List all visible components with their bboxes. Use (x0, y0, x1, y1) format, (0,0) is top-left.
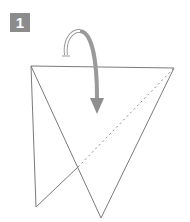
fold-arrow-icon (62, 31, 104, 114)
paper-bottom-left-edge (36, 167, 78, 207)
paper-right-edge (101, 68, 174, 218)
origami-diagram (0, 0, 190, 222)
valley-fold-line (78, 68, 174, 167)
paper-left-edge (31, 66, 36, 207)
paper-diagonal-edge (31, 66, 101, 218)
paper-top-edge (31, 66, 174, 68)
